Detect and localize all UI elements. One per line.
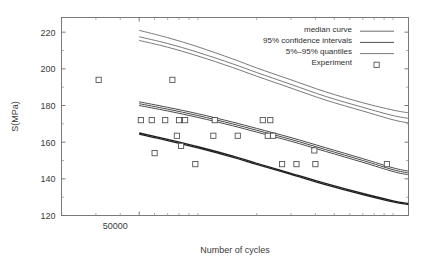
- y-tick-label: 120: [40, 211, 55, 221]
- data-point-marker: [279, 162, 284, 167]
- data-point-marker: [271, 133, 276, 138]
- data-point-marker: [170, 77, 175, 82]
- data-point-marker: [212, 118, 217, 123]
- data-point-marker: [265, 133, 270, 138]
- data-point-marker: [268, 118, 273, 123]
- data-point-marker: [211, 133, 216, 138]
- y-tick-label: 140: [40, 174, 55, 184]
- y-tick-label: 160: [40, 138, 55, 148]
- data-point-marker: [183, 118, 188, 123]
- data-point-marker: [176, 118, 181, 123]
- data-point-marker: [178, 143, 183, 148]
- data-point-marker: [138, 118, 143, 123]
- legend-label-2: 5%–95% quantiles: [286, 47, 352, 56]
- data-point-marker: [163, 118, 168, 123]
- y-axis-label: S(MPa): [10, 101, 20, 132]
- y-tick-label: 200: [40, 64, 55, 74]
- data-point-marker: [235, 133, 240, 138]
- legend-label-0: median curve: [304, 25, 353, 34]
- data-point-marker: [384, 162, 389, 167]
- legend-label-3: Experiment: [312, 58, 353, 67]
- data-point-marker: [193, 162, 198, 167]
- curve-line: [139, 106, 408, 175]
- data-point-marker: [174, 133, 179, 138]
- curve-line: [139, 37, 408, 119]
- fatigue-sn-chart: 12014016018020022050000Number of cyclesS…: [0, 0, 422, 261]
- curve-line: [139, 40, 408, 123]
- data-point-marker: [312, 148, 317, 153]
- plot-frame: [62, 18, 409, 216]
- data-point-marker: [152, 151, 157, 156]
- y-tick-label: 220: [40, 28, 55, 38]
- x-tick-label: 50000: [103, 221, 128, 231]
- data-point-marker: [313, 162, 318, 167]
- legend-marker-3: [374, 62, 379, 67]
- data-point-marker: [149, 118, 154, 123]
- data-point-marker: [294, 162, 299, 167]
- figure-canvas: 12014016018020022050000Number of cyclesS…: [0, 0, 422, 261]
- legend-label-1: 95% confidence intervals: [263, 36, 352, 45]
- data-point-marker: [260, 118, 265, 123]
- data-point-marker: [96, 77, 101, 82]
- x-axis-label: Number of cycles: [200, 245, 270, 255]
- y-tick-label: 180: [40, 101, 55, 111]
